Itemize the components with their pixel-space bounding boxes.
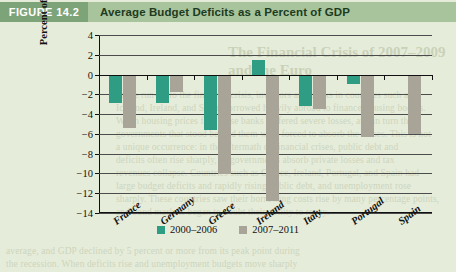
bar [123,75,136,128]
bar [252,60,265,75]
y-tick-mark [95,134,99,135]
gridline [99,35,432,36]
legend-swatch [239,226,247,234]
zero-axis-line [99,75,432,76]
plot-area: 420−2−4−6−8−10−12−14FranceGermanyGreeceI… [99,35,432,213]
x-tick-mark [147,75,148,80]
x-tick-mark [99,75,100,80]
y-tick-mark [95,94,99,95]
y-tick-label: 4 [59,30,93,41]
y-axis-title: Percent of GDP [38,0,49,70]
legend-swatch [157,226,165,234]
y-tick-label: 2 [59,49,93,60]
bar [170,75,183,93]
y-tick-mark [95,114,99,115]
x-tick-mark [384,75,385,80]
y-tick-label: −10 [59,168,93,179]
bar [347,75,360,85]
x-tick-mark [242,75,243,80]
bar [109,75,122,104]
y-tick-mark [95,55,99,56]
bar [266,75,279,202]
bar [408,75,421,134]
y-tick-label: −12 [59,188,93,199]
bar [218,75,231,175]
y-tick-mark [95,213,99,214]
x-tick-mark [289,75,290,80]
x-tick-mark [432,75,433,80]
y-tick-mark [95,35,99,36]
y-tick-mark [95,193,99,194]
y-tick-label: −6 [59,128,93,139]
figure-title: Average Budget Deficits as a Percent of … [100,2,350,22]
bar [204,75,217,130]
x-tick-mark [194,75,195,80]
chart-legend: 2000–20062007–2011 [0,224,456,235]
y-tick-label: −8 [59,148,93,159]
y-tick-label: −14 [59,208,93,219]
legend-item: 2007–2011 [239,224,299,235]
y-tick-label: −2 [59,89,93,100]
bar [156,75,169,104]
y-tick-label: 0 [59,69,93,80]
legend-label: 2007–2011 [252,224,299,235]
y-tick-mark [95,173,99,174]
legend-item: 2000–2006 [157,224,217,235]
bar [361,75,374,137]
legend-label: 2000–2006 [170,224,217,235]
y-tick-label: −4 [59,109,93,120]
figure-header-band: FIGURE 14.2 Average Budget Deficits as a… [0,2,456,22]
bar [299,75,312,107]
x-tick-mark [337,75,338,80]
y-tick-mark [95,154,99,155]
bar [313,75,326,110]
gridline [99,55,432,56]
